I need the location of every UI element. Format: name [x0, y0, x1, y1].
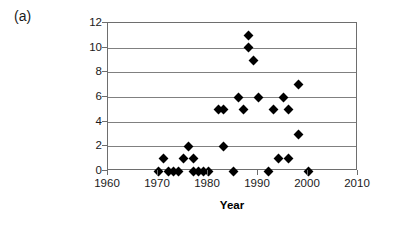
x-axis-tick-label: 2010	[332, 177, 382, 189]
data-point	[233, 92, 243, 102]
x-axis-tick-mark	[357, 170, 358, 175]
plot-area	[107, 22, 357, 170]
x-axis-tick-label: 1970	[132, 177, 182, 189]
data-point	[283, 154, 293, 164]
data-point	[188, 154, 198, 164]
y-axis-title: Total number of nests robbed	[30, 12, 68, 172]
x-axis-tick-label: 1990	[232, 177, 282, 189]
x-axis-title: Year	[107, 199, 357, 211]
data-point	[273, 154, 283, 164]
x-axis-tick-mark	[307, 170, 308, 175]
data-point	[228, 166, 238, 176]
data-point	[248, 55, 258, 65]
data-point	[278, 92, 288, 102]
data-point	[218, 141, 228, 151]
data-point	[243, 43, 253, 53]
scatter-points	[108, 23, 356, 169]
data-point	[238, 104, 248, 114]
x-axis-tick-label: 2000	[282, 177, 332, 189]
data-point	[243, 30, 253, 40]
panel-label: (a)	[14, 8, 31, 24]
data-point	[253, 92, 263, 102]
data-point	[293, 80, 303, 90]
x-axis-tick-label: 1960	[82, 177, 132, 189]
x-axis-tick-label: 1980	[182, 177, 232, 189]
y-axis-tick-label: 12	[78, 16, 102, 28]
data-point	[183, 141, 193, 151]
y-axis-tick-label: 4	[78, 115, 102, 127]
x-axis-tick-mark	[107, 170, 108, 175]
data-point	[178, 154, 188, 164]
data-point	[303, 166, 313, 176]
data-point	[153, 166, 163, 176]
x-axis-tick-mark	[257, 170, 258, 175]
x-axis-tick-mark	[207, 170, 208, 175]
y-axis-tick-label: 8	[78, 65, 102, 77]
data-point	[283, 104, 293, 114]
data-point	[293, 129, 303, 139]
y-axis-tick-label: 10	[78, 41, 102, 53]
y-axis-tick-label: 6	[78, 90, 102, 102]
y-axis-tick-labels: 024681012	[74, 22, 102, 170]
x-axis-tick-mark	[157, 170, 158, 175]
y-axis-tick-label: 2	[78, 139, 102, 151]
data-point	[263, 166, 273, 176]
data-point	[268, 104, 278, 114]
data-point	[158, 154, 168, 164]
y-axis-tick-label: 0	[78, 164, 102, 176]
